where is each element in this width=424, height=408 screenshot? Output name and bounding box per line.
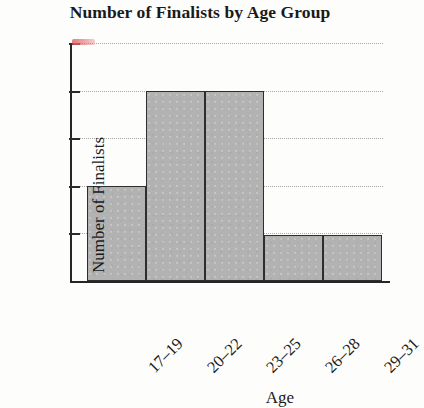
bar-23-25 <box>205 91 264 281</box>
x-tick-label-29-31: 29–31 <box>380 334 423 377</box>
y-axis-title: Number of Finalists <box>89 95 109 315</box>
y-axis-line <box>70 43 72 282</box>
bar-20-22 <box>146 91 205 281</box>
y-tick-4 <box>69 186 80 188</box>
x-tick-label-17-19: 17–19 <box>144 334 187 377</box>
bar-29-31 <box>323 235 382 282</box>
y-tick-6 <box>69 138 80 140</box>
plot-area: 10 8 6 4 2 0 17–19 20–22 23–25 26–28 29–… <box>70 43 383 281</box>
gridline-10 <box>72 43 383 44</box>
x-tick-label-20-22: 20–22 <box>203 334 246 377</box>
x-axis-line <box>70 281 390 283</box>
bar-26-28 <box>264 235 323 282</box>
y-tick-2 <box>69 233 80 235</box>
x-tick-label-23-25: 23–25 <box>262 334 305 377</box>
ink-smudge-artifact <box>72 39 95 45</box>
y-tick-8 <box>69 91 80 93</box>
x-axis-title: Age <box>70 388 424 408</box>
chart-title: Number of Finalists by Age Group <box>0 2 400 23</box>
x-tick-label-26-28: 26–28 <box>321 334 364 377</box>
